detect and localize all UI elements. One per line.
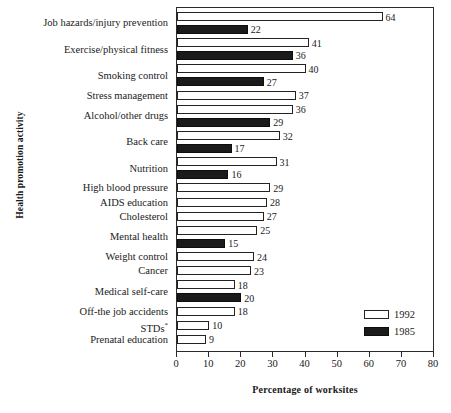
- x-tick-0: [176, 352, 177, 357]
- bar-1985-exercise-physical-fitness: [177, 51, 293, 60]
- category-label-weight-control: Weight control: [0, 251, 172, 262]
- bar-1992-cancer: [177, 266, 251, 275]
- bar-value-label: 18: [238, 307, 248, 316]
- bar-1992-mental-health: [177, 226, 257, 235]
- bar-value-label: 15: [228, 239, 238, 248]
- legend-label-1992: 1992: [394, 310, 415, 320]
- bar-value-label: 20: [244, 294, 254, 303]
- category-label-back-care: Back care: [0, 136, 172, 147]
- x-tick-50: [337, 352, 338, 357]
- category-label-medical-self-care: Medical self-care: [0, 286, 172, 297]
- bar-1992-aids-education: [177, 198, 267, 207]
- footnote-marker: *: [165, 321, 169, 329]
- category-label-mental-health: Mental health: [0, 231, 172, 242]
- bar-1992-weight-control: [177, 252, 254, 261]
- category-label-cholesterol: Cholesterol: [0, 211, 172, 222]
- legend-item-1992: 1992: [364, 308, 415, 321]
- bar-value-label: 37: [299, 91, 309, 100]
- bar-1992-prenatal-education: [177, 335, 206, 344]
- bar-1992-off-the-job-accidents: [177, 307, 235, 316]
- bar-value-label: 31: [280, 158, 290, 167]
- x-tick-80: [433, 352, 434, 357]
- bar-value-label: 18: [238, 281, 248, 290]
- x-tick-20: [240, 352, 241, 357]
- bar-1992-cholesterol: [177, 212, 264, 221]
- x-tick-40: [305, 352, 306, 357]
- x-axis-title: Percentage of worksites: [176, 384, 434, 395]
- category-label-high-blood-pressure: High blood pressure: [0, 182, 172, 193]
- category-label-aids-education: AIDS education: [0, 197, 172, 208]
- bar-1992-exercise-physical-fitness: [177, 38, 309, 47]
- white-bar-swatch-icon: [364, 310, 389, 319]
- category-label-job-hazards-injury-prevention: Job hazards/injury prevention: [0, 17, 172, 28]
- bar-value-label: 16: [231, 170, 241, 179]
- bar-value-label: 23: [254, 267, 264, 276]
- bar-chart: Health promotion activity Job hazards/in…: [0, 0, 451, 413]
- category-label-nutrition: Nutrition: [0, 163, 172, 174]
- legend-item-1985: 1985: [364, 325, 415, 338]
- legend-label-1985: 1985: [394, 327, 415, 337]
- bar-value-label: 10: [212, 321, 222, 330]
- bar-1992-high-blood-pressure: [177, 183, 270, 192]
- bar-value-label: 27: [267, 78, 277, 87]
- x-tick-10: [208, 352, 209, 357]
- x-tick-label-10: 10: [203, 358, 214, 369]
- bar-value-label: 29: [273, 184, 283, 193]
- bar-1985-mental-health: [177, 239, 225, 248]
- x-tick-60: [369, 352, 370, 357]
- bar-value-label: 40: [309, 65, 319, 74]
- bar-1985-medical-self-care: [177, 293, 241, 302]
- black-bar-swatch-icon: [364, 327, 389, 336]
- bar-1992-stress-management: [177, 91, 296, 100]
- bar-1985-alcohol-other-drugs: [177, 118, 270, 127]
- bar-value-label: 36: [296, 51, 306, 60]
- bar-value-label: 29: [273, 118, 283, 127]
- category-label-exercise-physical-fitness: Exercise/physical fitness: [0, 44, 172, 55]
- x-tick-label-20: 20: [235, 358, 246, 369]
- bar-1992-job-hazards-injury-prevention: [177, 12, 383, 21]
- x-tick-30: [272, 352, 273, 357]
- x-tick-label-50: 50: [331, 358, 342, 369]
- bar-value-label: 27: [267, 212, 277, 221]
- bar-value-label: 9: [209, 335, 214, 344]
- category-label-stds: STDs*: [0, 320, 172, 334]
- x-tick-70: [401, 352, 402, 357]
- x-axis-ticks: 01020304050607080: [176, 352, 434, 358]
- bar-1985-job-hazards-injury-prevention: [177, 25, 248, 34]
- category-label-stress-management: Stress management: [0, 90, 172, 101]
- bar-1985-smoking-control: [177, 77, 264, 86]
- bar-value-label: 41: [312, 39, 322, 48]
- category-label-prenatal-education: Prenatal education: [0, 334, 172, 345]
- bar-value-label: 24: [257, 253, 267, 262]
- category-label-alcohol-other-drugs: Alcohol/other drugs: [0, 110, 172, 121]
- bar-value-label: 36: [296, 105, 306, 114]
- bar-value-label: 28: [270, 198, 280, 207]
- bar-value-label: 25: [260, 226, 270, 235]
- bar-1985-nutrition: [177, 170, 228, 179]
- bar-1992-smoking-control: [177, 64, 306, 73]
- legend: 1992 1985: [364, 308, 415, 342]
- bar-1985-back-care: [177, 144, 232, 153]
- bar-1992-back-care: [177, 131, 280, 140]
- bar-1992-medical-self-care: [177, 280, 235, 289]
- bar-value-label: 22: [251, 25, 261, 34]
- bar-1992-nutrition: [177, 157, 277, 166]
- x-tick-label-0: 0: [173, 358, 178, 369]
- x-tick-label-70: 70: [396, 358, 407, 369]
- bar-value-label: 17: [235, 144, 245, 153]
- bar-1992-stds: [177, 321, 209, 330]
- bars-layer: 6422413640273736293217311629282725152423…: [177, 8, 434, 351]
- category-label-cancer: Cancer: [0, 265, 172, 276]
- x-tick-label-60: 60: [364, 358, 375, 369]
- x-tick-label-30: 30: [267, 358, 278, 369]
- category-label-smoking-control: Smoking control: [0, 70, 172, 81]
- bar-value-label: 32: [283, 132, 293, 141]
- bar-value-label: 64: [386, 13, 396, 22]
- x-tick-label-80: 80: [428, 358, 439, 369]
- bar-1992-alcohol-other-drugs: [177, 105, 293, 114]
- category-label-off-the-job-accidents: Off-the job accidents: [0, 306, 172, 317]
- x-tick-label-40: 40: [299, 358, 310, 369]
